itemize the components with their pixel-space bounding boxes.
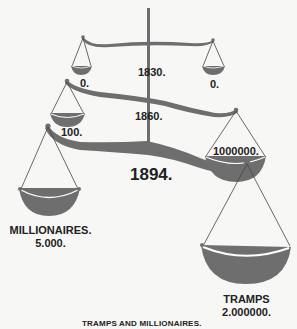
millionaires-name: MILLIONAIRES.: [8, 225, 93, 236]
value-1860-left: 100.: [61, 127, 82, 138]
year-1860-label: 1860.: [135, 111, 163, 122]
year-1894-label: 1894.: [130, 166, 173, 183]
pan-1830-right: [202, 41, 225, 75]
caption: TRAMPS AND MILLIONAIRES.: [82, 320, 202, 328]
value-1830-left: 0.: [80, 78, 89, 89]
millionaires-label: MILLIONAIRES. 5.000.: [8, 225, 93, 249]
value-1830-right: 0.: [210, 79, 219, 90]
tramps-label: TRAMPS 2.000000.: [214, 294, 279, 318]
tramps-name: TRAMPS: [214, 294, 279, 305]
millionaires-value: 5.000.: [8, 238, 93, 249]
pan-tramps: [200, 164, 291, 284]
value-1860-right: 1000000.: [213, 146, 259, 157]
tramps-value: 2.000000.: [214, 307, 279, 318]
year-1830-label: 1830.: [138, 67, 166, 78]
